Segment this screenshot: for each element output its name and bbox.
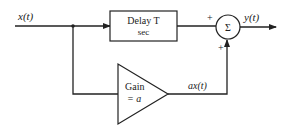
output-label: y(t) bbox=[243, 11, 260, 24]
gain-value-label: = a bbox=[127, 93, 141, 104]
block-diagram: x(t) Delay T sec + Σ y(t) Gain = a ax(t)… bbox=[0, 0, 291, 129]
input-label: x(t) bbox=[17, 10, 34, 23]
summer-symbol: Σ bbox=[225, 22, 231, 33]
delay-label: Delay T bbox=[127, 15, 159, 26]
gain-block bbox=[118, 64, 168, 124]
gain-label: Gain bbox=[125, 81, 144, 92]
delay-unit-label: sec bbox=[138, 27, 150, 37]
summer-sign-top: + bbox=[207, 12, 213, 23]
summer-sign-bottom: + bbox=[218, 42, 224, 53]
gain-output-label: ax(t) bbox=[188, 80, 208, 92]
